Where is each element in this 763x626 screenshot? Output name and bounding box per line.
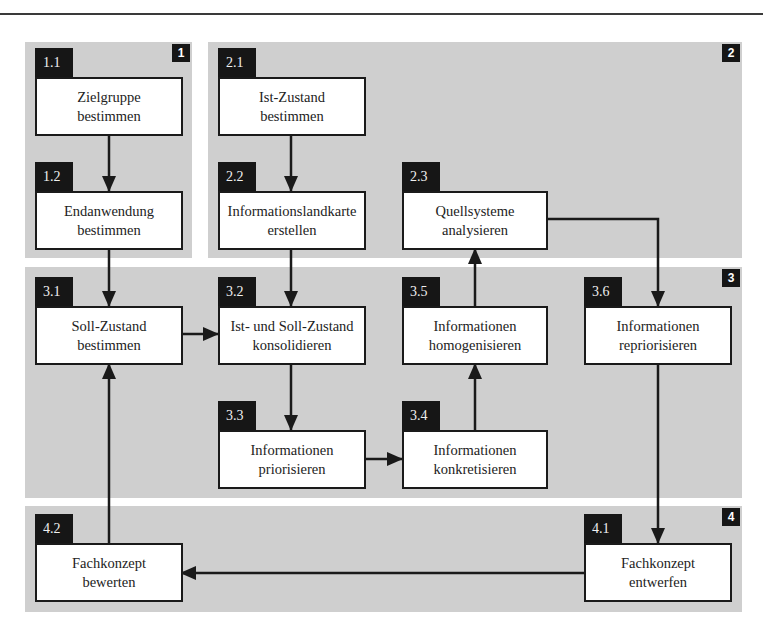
step-3.5-line1: Informationen	[434, 317, 517, 336]
step-3.1-number: 3.1	[35, 277, 73, 306]
step-3.6-line2: repriorisieren	[619, 336, 697, 355]
step-3.1-line1: Soll-Zustand	[72, 317, 147, 336]
step-3.6-line1: Informationen	[617, 317, 700, 336]
step-3.4-number: 3.4	[402, 401, 440, 430]
step-2.1-line2: bestimmen	[260, 107, 324, 126]
step-1.1-box: Zielgruppe bestimmen	[35, 77, 183, 136]
step-4.2-line1: Fachkonzept	[72, 554, 146, 573]
step-3.1-box: Soll-Zustand bestimmen	[35, 306, 183, 365]
step-3.2-line1: Ist- und Soll-Zustand	[230, 317, 353, 336]
step-3.6-number: 3.6	[584, 277, 622, 306]
step-2.1-number: 2.1	[218, 48, 256, 77]
step-3.4-line1: Informationen	[434, 441, 517, 460]
step-2.3-number: 2.3	[402, 162, 440, 191]
step-3.1-line2: bestimmen	[77, 336, 141, 355]
step-2.2-number: 2.2	[218, 162, 256, 191]
step-2.2-line2: erstellen	[267, 221, 316, 240]
step-3.2-number: 3.2	[218, 277, 256, 306]
step-3.3-box: Informationen priorisieren	[218, 430, 366, 489]
step-3.2-box: Ist- und Soll-Zustand konsolidieren	[218, 306, 366, 365]
step-3.3-number: 3.3	[218, 401, 256, 430]
step-3.5-line2: homogenisieren	[429, 336, 522, 355]
step-4.1-line1: Fachkonzept	[621, 554, 695, 573]
step-2.1-box: Ist-Zustand bestimmen	[218, 77, 366, 136]
step-1.2-number: 1.2	[35, 162, 73, 191]
step-3.3-line1: Informationen	[251, 441, 334, 460]
step-4.1-number: 4.1	[584, 514, 622, 543]
step-1.2-box: Endanwendung bestimmen	[35, 191, 183, 250]
step-3.2-line2: konsolidieren	[253, 336, 332, 355]
step-2.3-line2: analysieren	[442, 221, 508, 240]
step-1.1-line2: bestimmen	[77, 107, 141, 126]
step-4.2-line2: bewerten	[82, 573, 135, 592]
step-2.2-line1: Informationslandkarte	[228, 202, 357, 221]
step-3.5-number: 3.5	[402, 277, 440, 306]
step-3.4-box: Informationen konkretisieren	[402, 430, 548, 489]
step-2.3-box: Quellsysteme analysieren	[402, 191, 548, 250]
step-3.4-line2: konkretisieren	[434, 460, 517, 479]
step-1.1-line1: Zielgruppe	[77, 88, 141, 107]
step-1.1-number: 1.1	[35, 48, 73, 77]
step-2.1-line1: Ist-Zustand	[259, 88, 325, 107]
step-4.2-number: 4.2	[35, 514, 73, 543]
step-4.1-line2: entwerfen	[629, 573, 687, 592]
step-4.2-box: Fachkonzept bewerten	[35, 543, 183, 602]
step-3.3-line2: priorisieren	[259, 460, 326, 479]
step-1.2-line1: Endanwendung	[64, 202, 154, 221]
step-3.6-box: Informationen repriorisieren	[584, 306, 732, 365]
step-4.1-box: Fachkonzept entwerfen	[584, 543, 732, 602]
step-2.2-box: Informationslandkarte erstellen	[218, 191, 366, 250]
step-2.3-line1: Quellsysteme	[436, 202, 515, 221]
step-1.2-line2: bestimmen	[77, 221, 141, 240]
step-3.5-box: Informationen homogenisieren	[402, 306, 548, 365]
